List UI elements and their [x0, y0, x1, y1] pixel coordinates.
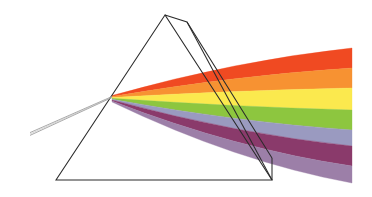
prism-diagram-canvas — [0, 0, 372, 197]
prism-dispersion-figure: Dispersion of white light through a tria… — [0, 0, 372, 197]
